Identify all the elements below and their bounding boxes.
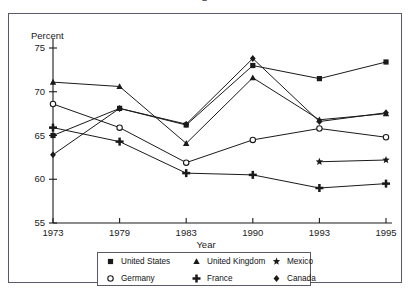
legend-entry-united-kingdom: United Kingdom xyxy=(184,256,264,267)
series-line-germany xyxy=(53,104,386,163)
series-markers-united-states xyxy=(50,59,388,138)
data-point-marker-open-circle xyxy=(117,125,122,130)
series-line-mexico xyxy=(319,160,386,162)
legend-label: United Kingdom xyxy=(207,257,265,266)
data-point-marker-bold-plus xyxy=(315,184,323,192)
y-tick-label: 75 xyxy=(23,42,45,53)
data-point-marker-filled-diamond xyxy=(274,275,280,282)
y-tick-label: 60 xyxy=(23,173,45,184)
data-point-marker-filled-triangle xyxy=(250,74,256,80)
filled-star-icon xyxy=(271,256,282,267)
filled-diamond-icon xyxy=(271,273,282,284)
legend-label: Mexico xyxy=(287,257,313,266)
chart-legend: United StatesUnited KingdomMexicoGermany… xyxy=(97,252,311,286)
cropped-title-text: p xyxy=(0,0,410,1)
series-line-united-kingdom xyxy=(53,78,386,144)
x-tick-label: 1995 xyxy=(366,227,406,238)
data-point-marker-open-circle xyxy=(50,101,55,106)
legend-entry-france: France xyxy=(184,273,264,284)
data-point-marker-filled-diamond xyxy=(50,151,56,158)
legend-label: Germany xyxy=(121,274,155,283)
data-point-marker-open-circle xyxy=(250,137,255,142)
filled-square-icon xyxy=(105,256,116,267)
data-point-marker-open-circle xyxy=(383,135,388,140)
data-point-marker-open-circle xyxy=(184,160,189,165)
data-point-marker-bold-plus xyxy=(49,124,57,132)
data-point-marker-filled-square xyxy=(250,63,255,68)
x-axis-title: Year xyxy=(9,239,403,250)
bold-plus-icon xyxy=(191,273,202,284)
data-point-marker-filled-square xyxy=(108,259,113,264)
x-tick-label: 1993 xyxy=(299,227,339,238)
data-point-marker-filled-square xyxy=(50,133,55,138)
legend-entry-germany: Germany xyxy=(98,273,184,284)
filled-triangle-icon xyxy=(191,256,202,267)
x-tick-label: 1979 xyxy=(100,227,140,238)
data-point-marker-filled-square xyxy=(383,59,388,64)
open-circle-icon xyxy=(105,273,116,284)
y-axis-title: Percent xyxy=(31,30,64,41)
data-point-marker-bold-plus xyxy=(382,180,390,188)
series-markers-france xyxy=(49,124,390,192)
data-point-marker-bold-plus xyxy=(193,275,201,283)
data-point-marker-bold-plus xyxy=(116,138,124,146)
y-tick-label: 70 xyxy=(23,86,45,97)
legend-label: United States xyxy=(121,257,170,266)
legend-label: Canada xyxy=(287,274,316,283)
legend-entry-mexico: Mexico xyxy=(264,256,312,267)
series-line-france xyxy=(53,128,386,188)
series-markers-canada xyxy=(50,55,389,158)
data-point-marker-filled-square xyxy=(317,76,322,81)
data-point-marker-filled-star xyxy=(382,156,389,163)
data-point-marker-filled-triangle xyxy=(193,258,199,264)
figure-frame: Percent Year 5560657075 1973197919831990… xyxy=(8,13,402,283)
legend-label: France xyxy=(207,274,232,283)
data-point-marker-open-circle xyxy=(108,276,113,281)
data-point-marker-open-circle xyxy=(317,126,322,131)
data-point-marker-filled-star xyxy=(273,258,280,265)
x-tick-label: 1990 xyxy=(233,227,273,238)
data-point-marker-filled-star xyxy=(316,158,323,165)
data-point-marker-bold-plus xyxy=(249,171,257,179)
legend-entry-united-states: United States xyxy=(98,256,184,267)
chart-screenshot: p Percent Year 5560657075 19731979198319… xyxy=(0,0,410,294)
x-tick-label: 1973 xyxy=(33,227,73,238)
y-tick-label: 65 xyxy=(23,130,45,141)
data-point-marker-bold-plus xyxy=(182,169,190,177)
series-line-canada xyxy=(53,59,386,155)
x-tick-label: 1983 xyxy=(166,227,206,238)
legend-entry-canada: Canada xyxy=(264,273,312,284)
series-line-united-states xyxy=(53,62,386,136)
